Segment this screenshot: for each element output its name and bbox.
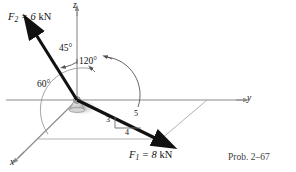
- force-label-F2: F2 = 6 kN: [8, 12, 51, 24]
- force-equals-F1: =: [139, 149, 151, 160]
- force-symbol-F1: F1: [129, 149, 139, 160]
- axis-label-x: x: [10, 158, 14, 168]
- force-symbol-F2: F2: [8, 11, 18, 22]
- force-equals-F2: =: [18, 11, 30, 22]
- slope-label-run: 4: [125, 129, 129, 137]
- angle-label-120: 120°: [79, 57, 97, 67]
- angle-label-60: 60°: [37, 80, 50, 90]
- problem-caption: Prob. 2–67: [228, 153, 270, 163]
- force-diagram-figure: F2 = 6 kN F1 = 8 kN 45° 120° 60° 3 4 5 z…: [0, 0, 296, 172]
- slope-label-rise: 3: [106, 116, 110, 124]
- angle-arc-45: [65, 59, 77, 67]
- axis-label-z: z: [73, 1, 77, 11]
- angle-label-45: 45°: [59, 44, 72, 54]
- axis-label-y: y: [247, 94, 251, 104]
- force-unit-F2: kN: [36, 11, 51, 22]
- origin-support-marker: [66, 96, 98, 116]
- force-vector-F1: [77, 100, 157, 139]
- force-label-F1: F1 = 8 kN: [129, 150, 172, 162]
- force-unit-F1: kN: [157, 149, 172, 160]
- slope-label-hypotenuse: 5: [134, 110, 138, 118]
